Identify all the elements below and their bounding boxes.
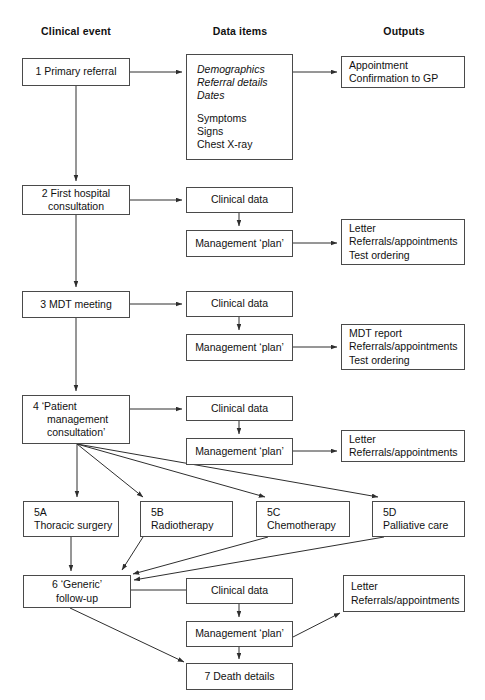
node-step4-plan-label: Management ‘plan’	[187, 445, 292, 458]
node-step1-data-items[interactable]: Demographics Referral details Dates Symp…	[186, 54, 293, 160]
data-item-symptoms: Symptoms	[187, 112, 292, 125]
node-step6-output[interactable]: Letter Referrals/appointments	[343, 575, 465, 612]
node-step5a-thoracic-surgery[interactable]: 5A Thoracic surgery	[23, 501, 119, 537]
output3-mdt-report: MDT report	[342, 327, 464, 340]
node-step5d-code: 5D	[373, 506, 464, 519]
node-step5a-label: Thoracic surgery	[24, 519, 118, 532]
node-step5c-code: 5C	[257, 506, 349, 519]
node-step4-management-plan[interactable]: Management ‘plan’	[186, 438, 293, 465]
data-item-signs: Signs	[187, 125, 292, 138]
node-step6-plan-label: Management ‘plan’	[187, 627, 292, 640]
node-step6-clinical-label: Clinical data	[187, 584, 292, 597]
data-item-referral-details: Referral details	[187, 76, 292, 89]
output6-letter: Letter	[344, 580, 464, 593]
node-step7-death-details[interactable]: 7 Death details	[186, 663, 293, 690]
output4-letter: Letter	[342, 433, 464, 446]
node-step3-label: 3 MDT meeting	[23, 298, 129, 311]
data-items-spacer	[187, 103, 292, 112]
node-step2-plan-label: Management ‘plan’	[187, 237, 292, 250]
node-step5d-label: Palliative care	[373, 519, 464, 532]
node-step5c-chemotherapy[interactable]: 5C Chemotherapy	[256, 501, 350, 537]
output6-referrals-appointments: Referrals/appointments	[344, 594, 464, 607]
node-step6-generic-follow-up[interactable]: 6 ‘Generic’ follow-up	[23, 575, 131, 608]
output3-referrals-appointments: Referrals/appointments	[342, 340, 464, 353]
node-step4-patient-management-consultation[interactable]: 4 ‘Patient management consultation’	[22, 395, 130, 444]
node-step5c-label: Chemotherapy	[257, 519, 349, 532]
node-step2-output[interactable]: Letter Referrals/appointments Test order…	[341, 219, 465, 265]
node-step6-label-line1: 6 ‘Generic’	[24, 578, 130, 591]
node-step5b-radiotherapy[interactable]: 5B Radiotherapy	[140, 501, 233, 537]
node-step2-label-line1: 2 First hospital	[23, 187, 129, 200]
node-step5b-code: 5B	[141, 506, 232, 519]
edge-plan-to-output6	[293, 613, 340, 637]
edge-5b-to-step6	[122, 537, 143, 570]
node-step3-output[interactable]: MDT report Referrals/appointments Test o…	[341, 324, 465, 370]
flowchart-canvas: Clinical event Data items Outputs	[0, 0, 485, 700]
node-step2-label-line2: consultation	[23, 200, 129, 213]
node-step7-label: 7 Death details	[187, 670, 292, 683]
output-appointment: Appointment	[342, 59, 464, 72]
node-step3-management-plan[interactable]: Management ‘plan’	[186, 334, 293, 361]
column-header-data-items: Data items	[186, 25, 294, 37]
output2-referrals-appointments: Referrals/appointments	[342, 235, 464, 248]
node-step4-output[interactable]: Letter Referrals/appointments	[341, 430, 465, 462]
node-step1-label: 1 Primary referral	[23, 65, 129, 78]
output3-test-ordering: Test ordering	[342, 354, 464, 367]
edge-5d-to-step6	[134, 537, 384, 580]
edge-step4-to-5b	[77, 444, 143, 497]
node-step2-clinical-label: Clinical data	[187, 193, 292, 206]
node-step5b-label: Radiotherapy	[141, 519, 232, 532]
column-header-clinical-event: Clinical event	[22, 25, 130, 37]
node-step2-first-hospital-consultation[interactable]: 2 First hospital consultation	[22, 185, 130, 215]
data-item-dates: Dates	[187, 89, 292, 102]
node-step5d-palliative-care[interactable]: 5D Palliative care	[372, 501, 465, 537]
node-step6-clinical-data[interactable]: Clinical data	[186, 578, 293, 604]
output4-referrals-appointments: Referrals/appointments	[342, 446, 464, 459]
node-step2-management-plan[interactable]: Management ‘plan’	[186, 230, 293, 257]
column-header-outputs: Outputs	[350, 25, 458, 37]
node-step6-management-plan[interactable]: Management ‘plan’	[186, 621, 293, 647]
data-item-demographics: Demographics	[187, 63, 292, 76]
node-step6-label-line2: follow-up	[24, 592, 130, 605]
node-step3-mdt-meeting[interactable]: 3 MDT meeting	[22, 291, 130, 318]
output-confirmation-to-gp: Confirmation to GP	[342, 72, 464, 85]
node-step5a-code: 5A	[24, 506, 118, 519]
node-step4-label-line1: 4 ‘Patient	[23, 400, 129, 413]
node-step1-primary-referral[interactable]: 1 Primary referral	[22, 58, 130, 86]
edge-5c-to-step6	[133, 537, 268, 574]
output2-test-ordering: Test ordering	[342, 249, 464, 262]
edge-step6-to-death	[70, 608, 184, 662]
node-step3-plan-label: Management ‘plan’	[187, 341, 292, 354]
node-step4-clinical-label: Clinical data	[187, 402, 292, 415]
node-step2-clinical-data[interactable]: Clinical data	[186, 187, 293, 213]
data-item-chest-xray: Chest X-ray	[187, 138, 292, 151]
node-step4-clinical-data[interactable]: Clinical data	[186, 396, 293, 421]
node-step4-label-line3: consultation’	[23, 426, 129, 439]
node-step3-clinical-label: Clinical data	[187, 297, 292, 310]
output2-letter: Letter	[342, 222, 464, 235]
node-step3-clinical-data[interactable]: Clinical data	[186, 291, 293, 317]
node-step1-output[interactable]: Appointment Confirmation to GP	[341, 56, 465, 88]
node-step4-label-line2: management	[23, 413, 129, 426]
